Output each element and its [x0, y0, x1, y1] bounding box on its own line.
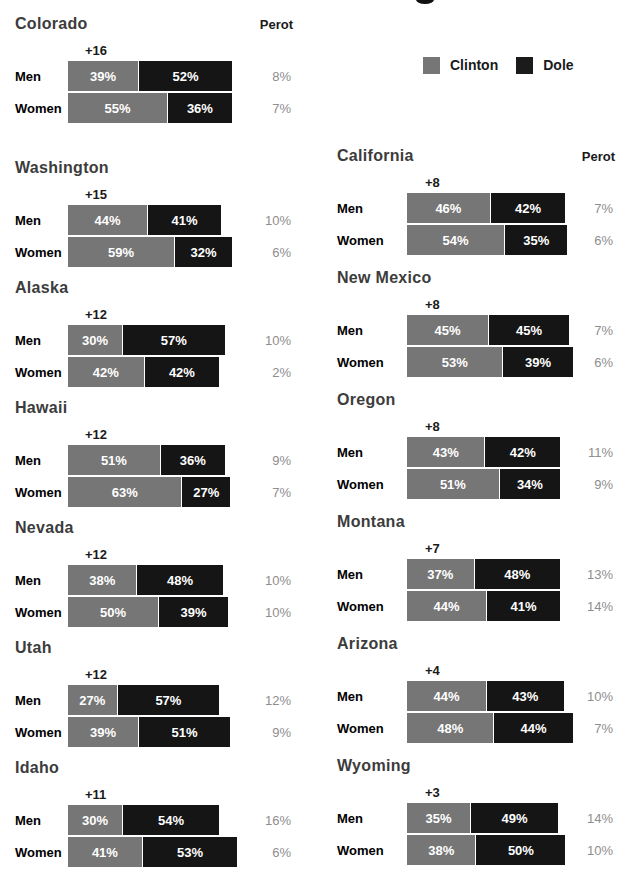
stacked-bar: 50%39% [68, 597, 228, 627]
perot-value: 7% [594, 201, 613, 216]
state-chart-hawaii: Hawaii+12Men51%36%9%Women63%27%7% [15, 399, 293, 507]
perot-value: 2% [272, 365, 291, 380]
clinton-bar-segment: 35% [407, 803, 470, 833]
chart-header-new-mexico: New Mexico [337, 269, 615, 287]
gender-gap-label: +11 [85, 787, 293, 803]
state-chart-california: CaliforniaPerot+8Men46%42%7%Women54%35%6… [337, 147, 615, 255]
clinton-bar-segment: 44% [407, 681, 486, 711]
state-chart-montana: Montana+7Men37%48%13%Women44%41%14% [337, 513, 615, 621]
perot-value: 9% [272, 453, 291, 468]
clinton-bar-segment: 59% [68, 237, 174, 267]
perot-value: 10% [265, 213, 291, 228]
chart-header-wyoming: Wyoming [337, 757, 615, 775]
clinton-bar-segment: 53% [407, 347, 502, 377]
dole-bar-segment: 36% [160, 445, 225, 475]
stacked-bar: 37%48% [407, 559, 560, 589]
dole-bar-segment: 41% [486, 591, 560, 621]
row-label-men: Men [337, 323, 407, 338]
dole-bar-segment: 57% [117, 685, 220, 715]
bar-row-women: Women54%35%6% [337, 225, 615, 255]
dole-bar-segment: 57% [122, 325, 225, 355]
gender-gap-label: +12 [85, 427, 293, 443]
perot-value: 9% [594, 477, 613, 492]
perot-value: 14% [587, 599, 613, 614]
bar-row-women: Women42%42%2% [15, 357, 293, 387]
stacked-bar: 42%42% [68, 357, 219, 387]
perot-value: 10% [587, 689, 613, 704]
state-name: Oregon [337, 391, 396, 409]
clinton-bar-segment: 63% [68, 477, 181, 507]
stacked-bar: 44%41% [68, 205, 221, 235]
bar-row-women: Women44%41%14% [337, 591, 615, 621]
row-label-women: Women [15, 725, 68, 740]
clinton-bar-segment: 45% [407, 315, 488, 345]
chart-header-colorado: ColoradoPerot [15, 15, 293, 33]
perot-value: 10% [587, 843, 613, 858]
clinton-bar-segment: 43% [407, 437, 484, 467]
stacked-bar: 27%57% [68, 685, 219, 715]
bar-row-women: Women51%34%9% [337, 469, 615, 499]
gender-gap-label: +8 [425, 419, 615, 435]
perot-value: 6% [594, 233, 613, 248]
dole-bar-segment: 35% [504, 225, 567, 255]
clinton-bar-segment: 39% [68, 61, 138, 91]
stacked-bar: 39%52% [68, 61, 232, 91]
row-label-men: Men [15, 453, 68, 468]
state-chart-utah: Utah+12Men27%57%12%Women39%51%9% [15, 639, 293, 747]
perot-value: 10% [265, 573, 291, 588]
row-label-men: Men [15, 213, 68, 228]
state-name: Alaska [15, 279, 68, 297]
stacked-bar: 53%39% [407, 347, 573, 377]
bar-row-women: Women59%32%6% [15, 237, 293, 267]
dole-bar-segment: 48% [474, 559, 560, 589]
bar-row-men: Men51%36%9% [15, 445, 293, 475]
clinton-bar-segment: 38% [68, 565, 136, 595]
bar-row-men: Men43%42%11% [337, 437, 615, 467]
row-label-men: Men [15, 693, 68, 708]
row-label-men: Men [337, 201, 407, 216]
dole-bar-segment: 39% [502, 347, 572, 377]
clinton-bar-segment: 39% [68, 717, 138, 747]
bar-row-men: Men45%45%7% [337, 315, 615, 345]
state-name: Utah [15, 639, 52, 657]
gender-gap-label: +3 [425, 785, 615, 801]
chart-header-idaho: Idaho [15, 759, 293, 777]
perot-value: 10% [265, 333, 291, 348]
clinton-legend-label: Clinton [450, 57, 498, 73]
dole-bar-segment: 42% [144, 357, 220, 387]
stacked-bar: 30%54% [68, 805, 219, 835]
clinton-legend-swatch [423, 57, 440, 74]
clinton-bar-segment: 38% [407, 835, 475, 865]
bar-row-women: Women48%44%7% [337, 713, 615, 743]
dole-bar-segment: 36% [167, 93, 232, 123]
chart-header-montana: Montana [337, 513, 615, 531]
gender-gap-label: +8 [425, 175, 615, 191]
bar-row-men: Men46%42%7% [337, 193, 615, 223]
clinton-bar-segment: 51% [407, 469, 499, 499]
gender-gap-label: +7 [425, 541, 615, 557]
row-label-women: Women [15, 245, 68, 260]
row-label-women: Women [337, 721, 407, 736]
stacked-bar: 45%45% [407, 315, 569, 345]
state-name: Hawaii [15, 399, 68, 417]
dole-bar-segment: 49% [470, 803, 558, 833]
stacked-bar: 39%51% [68, 717, 230, 747]
row-label-men: Men [15, 69, 68, 84]
perot-value: 8% [272, 69, 291, 84]
perot-value: 7% [594, 323, 613, 338]
state-chart-washington: Washington+15Men44%41%10%Women59%32%6% [15, 159, 293, 267]
state-chart-alaska: Alaska+12Men30%57%10%Women42%42%2% [15, 279, 293, 387]
row-label-men: Men [337, 445, 407, 460]
clinton-bar-segment: 50% [68, 597, 158, 627]
stacked-bar: 30%57% [68, 325, 225, 355]
bar-row-men: Men38%48%10% [15, 565, 293, 595]
perot-value: 7% [272, 101, 291, 116]
dole-bar-segment: 41% [147, 205, 221, 235]
perot-value: 11% [588, 445, 613, 460]
chart-header-california: CaliforniaPerot [337, 147, 615, 165]
perot-value: 9% [272, 725, 291, 740]
gender-gap-label: +12 [85, 307, 293, 323]
row-label-women: Women [337, 355, 407, 370]
row-label-men: Men [15, 813, 68, 828]
clinton-bar-segment: 44% [407, 591, 486, 621]
